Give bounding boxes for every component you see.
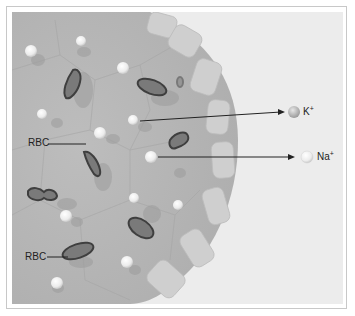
diagram-panel (12, 12, 343, 304)
rbc-3 (177, 77, 183, 87)
rbc-6 (28, 188, 57, 200)
sodium-ion-icon (301, 151, 313, 163)
sodium-label: Na+ (317, 151, 334, 163)
sodium-arrowhead (288, 154, 295, 160)
potassium-arrowhead (278, 109, 285, 115)
rbc-label-bottom: RBC (25, 251, 46, 263)
potassium-ion-icon (288, 106, 300, 118)
cell-illustration (12, 12, 343, 304)
rbc-label-top: RBC (28, 137, 49, 149)
potassium-label: K+ (303, 106, 314, 118)
